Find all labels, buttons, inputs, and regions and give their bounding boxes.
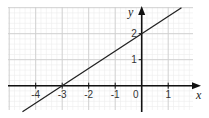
x-tick-label: 1 — [165, 89, 171, 100]
x-axis-label: x — [195, 88, 202, 102]
x-tick-label: 0 — [133, 89, 139, 100]
x-tick-label: -1 — [111, 89, 120, 100]
x-tick-label: -3 — [58, 89, 67, 100]
x-tick-label: -4 — [31, 89, 40, 100]
line-chart: -4-3-2-10112 x y — [0, 0, 209, 118]
y-axis-label: y — [127, 5, 134, 19]
x-tick-label: -2 — [84, 89, 93, 100]
y-tick-label: 1 — [131, 54, 137, 65]
